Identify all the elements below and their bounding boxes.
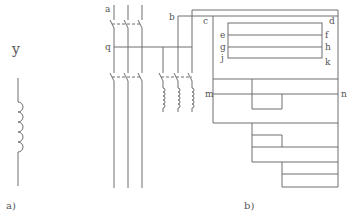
label-b: b: [169, 12, 175, 22]
main-three-phase-lines: [110, 5, 142, 188]
label-f: f: [325, 30, 329, 40]
label-k: k: [325, 57, 331, 67]
label-n: n: [341, 89, 347, 99]
label-e: e: [220, 30, 225, 40]
coil-symbol-a: [18, 78, 23, 186]
label-h: h: [325, 42, 331, 52]
label-m: m: [205, 89, 214, 99]
circuit-diagram: y a) a q b c d e f g h j k m n b): [0, 0, 356, 219]
bus-frame: [213, 10, 338, 187]
label-a: a: [105, 4, 111, 14]
label-q: q: [105, 42, 111, 52]
caption-b: b): [244, 200, 254, 211]
label-j: j: [220, 53, 224, 63]
label-y: y: [11, 41, 20, 57]
label-c: c: [203, 16, 208, 26]
caption-a: a): [6, 200, 16, 211]
label-d: d: [329, 16, 335, 26]
label-g: g: [220, 42, 226, 52]
coil-branch-lines: [159, 10, 338, 112]
